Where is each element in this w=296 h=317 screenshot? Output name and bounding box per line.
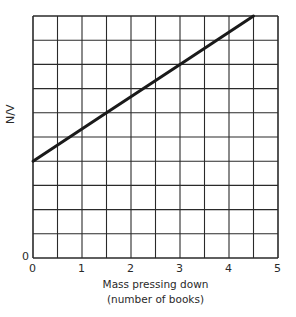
x-tick-label: 5 bbox=[274, 263, 281, 274]
x-tick-label: 0 bbox=[29, 263, 36, 274]
y-tick-zero: 0 bbox=[22, 251, 29, 262]
x-tick-label: 2 bbox=[127, 263, 134, 274]
x-tick-label: 1 bbox=[78, 263, 85, 274]
plot-area bbox=[0, 0, 296, 317]
x-tick-label: 4 bbox=[225, 263, 232, 274]
y-axis-label: N/V bbox=[4, 105, 17, 124]
x-tick-label: 3 bbox=[176, 263, 183, 274]
chart: 012345 0 N/V Mass pressing down (number … bbox=[0, 0, 296, 317]
x-axis-label-line1: Mass pressing down bbox=[0, 278, 296, 291]
x-axis-label-line2: (number of books) bbox=[0, 293, 296, 306]
